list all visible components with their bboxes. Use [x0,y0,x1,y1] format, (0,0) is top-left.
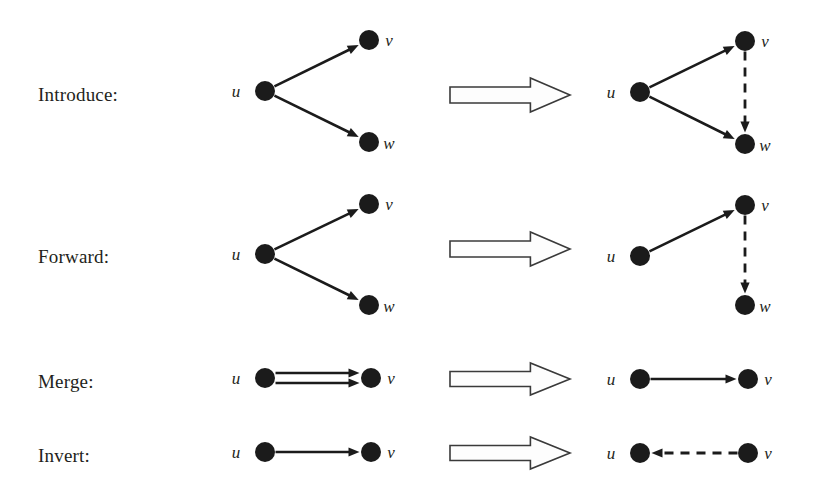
vertex-label-introduce-before-u: u [232,82,241,101]
vertex-label-invert-after-v: v [764,444,772,463]
vertex-label-merge-before-u: u [232,369,241,388]
graph-merge-after: uv [607,369,772,389]
vertex-introduce-after-v [735,31,755,51]
vertex-label-forward-after-v: v [761,196,769,215]
vertex-introduce-before-u [255,81,275,101]
vertex-merge-after-v [738,369,758,389]
arrowhead-forward-after-1 [740,283,749,294]
arrowhead-forward-before-0 [347,209,359,218]
vertex-forward-before-w [359,295,379,315]
vertex-label-introduce-before-v: v [385,31,393,50]
arrowhead-introduce-after-0 [723,46,735,55]
arrowhead-introduce-before-0 [347,45,359,54]
arrowhead-introduce-after-2 [740,122,749,133]
graph-invert-after: uv [607,443,772,463]
graph-invert-before: uv [232,442,395,462]
vertex-forward-after-w [735,295,755,315]
vertex-forward-before-v [359,194,379,214]
rule-label-invert-text: Invert: [38,445,90,466]
vertex-label-merge-before-v: v [387,369,395,388]
graph-merge-before: uv [232,368,395,388]
graph-forward-before: uvw [232,194,396,316]
arrowhead-forward-before-1 [347,291,359,300]
vertex-forward-after-u [630,246,650,266]
vertex-label-forward-before-u: u [232,245,241,264]
arrowhead-invert-before-0 [349,447,360,456]
rule-label-merge: Merge: [38,371,94,393]
graph-forward-after: uvw [607,195,772,316]
graph-introduce-before: uvw [232,30,396,153]
vertex-label-forward-after-w: w [759,297,771,316]
rule-label-forward-text: Forward: [38,246,109,267]
graph-rules-svg: uvwuvwuvwuvwuvuvuvuv [0,0,822,493]
rule-label-merge-text: Merge: [38,371,94,392]
vertex-label-introduce-after-v: v [761,32,769,51]
vertex-introduce-before-w [359,132,379,152]
diagram-canvas: Introduce: Forward: Merge: Invert: uvwuv… [0,0,822,493]
vertex-introduce-after-w [735,134,755,154]
vertex-introduce-before-v [359,30,379,50]
vertex-label-merge-after-v: v [764,370,772,389]
edge-forward-after-0 [649,213,729,252]
edge-introduce-before-0 [274,48,353,87]
arrowhead-introduce-after-1 [723,130,735,139]
vertex-merge-before-u [255,368,275,388]
edge-introduce-before-1 [274,96,353,135]
vertex-label-introduce-after-u: u [607,83,616,102]
edge-introduce-after-0 [649,49,729,88]
arrowhead-merge-after-0 [726,374,737,383]
vertex-label-invert-after-u: u [607,444,616,463]
arrowhead-merge-before-0 [349,368,360,377]
transform-arrow-introduce [450,78,570,112]
transform-arrow-forward [450,232,570,266]
edge-forward-before-0 [274,212,353,250]
transform-arrow-invert [450,437,570,469]
arrowhead-forward-after-0 [723,210,735,219]
arrowhead-merge-before-1 [349,378,360,387]
edge-introduce-after-1 [649,97,729,137]
vertex-merge-after-u [630,369,650,389]
arrowhead-invert-after-0 [652,448,663,457]
rule-label-invert: Invert: [38,445,90,467]
vertex-label-introduce-after-w: w [759,136,771,155]
vertex-forward-after-v [735,195,755,215]
vertex-label-invert-before-v: v [387,443,395,462]
vertex-invert-after-v [738,443,758,463]
edge-forward-before-1 [274,259,353,298]
graph-introduce-after: uvw [607,31,772,155]
vertex-label-merge-after-u: u [607,370,616,389]
vertex-label-forward-before-v: v [385,195,393,214]
vertex-merge-before-v [361,368,381,388]
vertex-label-introduce-before-w: w [383,134,395,153]
vertex-forward-before-u [255,244,275,264]
transform-arrow-merge [450,363,570,395]
vertex-invert-before-v [361,442,381,462]
vertex-introduce-after-u [630,82,650,102]
rule-label-introduce-text: Introduce: [38,84,118,105]
vertex-invert-after-u [630,443,650,463]
vertex-label-forward-after-u: u [607,247,616,266]
rule-label-introduce: Introduce: [38,84,118,106]
vertex-label-invert-before-u: u [232,443,241,462]
vertex-label-forward-before-w: w [383,297,395,316]
vertex-invert-before-u [255,442,275,462]
arrowhead-introduce-before-1 [347,128,359,137]
rule-label-forward: Forward: [38,246,109,268]
